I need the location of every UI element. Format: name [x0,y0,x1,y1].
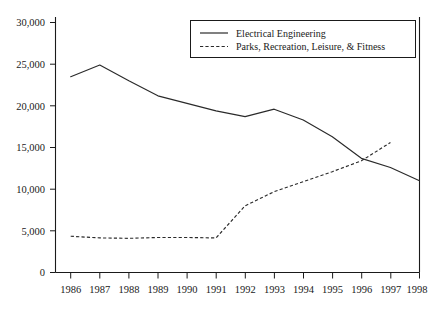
y-axis-label-10000: 10,000 [16,184,45,195]
x-axis-label-1992: 1992 [235,284,256,295]
x-axis-label-1998: 1998 [407,284,428,295]
x-axis-label-1996: 1996 [351,284,372,295]
y-axis-label-5000: 5,000 [21,226,45,237]
x-axis-label-1997: 1997 [380,284,401,295]
x-axis-label-1995: 1995 [322,284,343,295]
x-axis-label-1989: 1989 [148,284,169,295]
x-axis-label-1994: 1994 [293,284,315,295]
x-axis-label-1993: 1993 [264,284,285,295]
legend-label-parks-recreation: Parks, Recreation, Leisure, & Fitness [236,41,385,52]
y-axis-labels: 30,000 25,000 20,000 15,000 10,000 5,000… [16,17,45,278]
series-group [71,65,420,238]
x-axis-label-1987: 1987 [89,284,110,295]
chart-figure: 30,000 25,000 20,000 15,000 10,000 5,000… [0,0,432,309]
y-axis-label-30000: 30,000 [16,17,45,28]
line-chart: 30,000 25,000 20,000 15,000 10,000 5,000… [0,0,432,309]
x-axis-label-1986: 1986 [60,284,81,295]
series-line-parks-recreation [71,143,391,239]
series-line-electrical-engineering [71,65,420,181]
y-axis-label-0: 0 [40,267,45,278]
y-axis-label-25000: 25,000 [16,59,45,70]
legend-label-electrical-engineering: Electrical Engineering [236,28,326,39]
x-axis-label-1990: 1990 [177,284,198,295]
y-axis-label-20000: 20,000 [16,101,45,112]
x-axis-labels: 1986 1987 1988 1989 1990 1991 1992 1993 … [60,284,427,295]
chart-legend: Electrical Engineering Parks, Recreation… [191,21,416,58]
y-axis-label-15000: 15,000 [16,142,45,153]
y-axis-ticks [50,23,56,273]
x-axis-label-1988: 1988 [118,284,139,295]
x-axis-ticks [71,273,420,279]
x-axis-label-1991: 1991 [206,284,227,295]
